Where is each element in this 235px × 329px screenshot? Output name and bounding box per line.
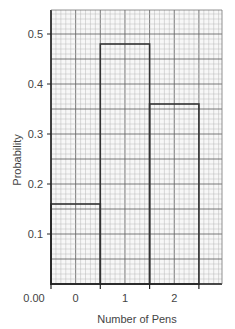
origin-label: 0.00 [23, 292, 44, 304]
y-tick-label: 0.3 [28, 128, 43, 140]
y-tick-label: 0.4 [28, 78, 43, 90]
y-tick-label: 0.5 [28, 28, 43, 40]
x-axis-ticks: 012 [51, 284, 199, 304]
x-tick-label: 2 [171, 292, 177, 304]
y-axis-title: Probability [11, 134, 23, 186]
histogram-chart: 0.10.20.30.40.5 012 0.00 Number of Pens … [0, 0, 235, 329]
x-tick-label: 0 [73, 292, 79, 304]
y-tick-label: 0.2 [28, 178, 43, 190]
x-tick-label: 1 [122, 292, 128, 304]
graph-paper-grid [51, 10, 222, 284]
y-tick-label: 0.1 [28, 228, 43, 240]
y-axis-ticks: 0.10.20.30.40.5 [28, 28, 51, 240]
x-axis-title: Number of Pens [97, 313, 177, 325]
